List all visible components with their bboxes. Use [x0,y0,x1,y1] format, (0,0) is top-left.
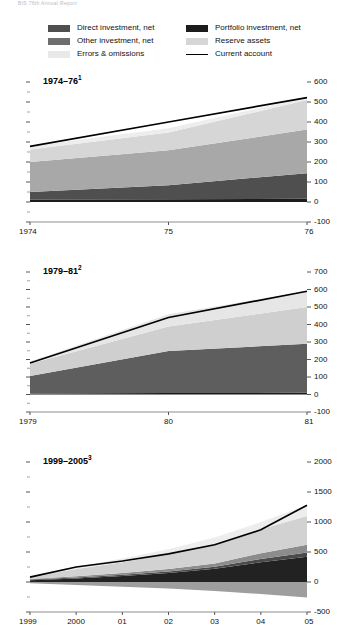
y-axis-tick-label: 500 [314,302,327,311]
y-axis-tick-label: 200 [314,157,327,166]
plot-area [0,250,350,440]
y-axis-tick-label: 500 [314,97,327,106]
legend-label: Direct investment, net [77,24,154,32]
y-axis-tick-label: 400 [314,320,327,329]
legend-label: Portfolio investment, net [215,24,301,32]
y-axis-tick-label: -500 [314,607,330,616]
y-axis-tick-label: 0 [314,390,318,399]
chart-legend: Direct investment, net Other investment,… [0,22,350,58]
legend-column-left: Direct investment, net Other investment,… [48,22,154,61]
legend-swatch-other-investment [48,38,70,45]
legend-item: Other investment, net [48,35,154,47]
y-axis-tick-label: 600 [314,285,327,294]
x-axis-tick-label: 2000 [67,617,85,626]
legend-item: Direct investment, net [48,22,154,34]
y-axis-tick-label: -100 [314,407,330,416]
chart-panel-1999-2005: 1999–20053-50005001000150020001999200001… [0,440,350,641]
y-axis-tick-label: 600 [314,77,327,86]
x-axis-tick-label: 81 [305,417,314,426]
x-axis-tick-label: 75 [164,227,173,236]
legend-label: Other investment, net [77,37,153,45]
x-axis-tick-label: 76 [305,227,314,236]
x-axis-tick-label: 04 [256,617,265,626]
cut-off-header: BIS 76th Annual Report [18,0,77,6]
legend-column-right: Portfolio investment, net Reserve assets… [186,22,301,61]
x-axis-tick-label: 1974 [19,227,37,236]
y-axis-tick-label: 300 [314,337,327,346]
y-axis-tick-label: 200 [314,355,327,364]
x-axis-tick-label: 03 [210,617,219,626]
panel-title-text: 1974–76 [43,76,78,86]
y-axis-tick-label: 0 [314,197,318,206]
legend-label: Errors & omissions [77,50,144,58]
area-below-axis-component [30,582,307,598]
legend-label: Reserve assets [215,37,270,45]
y-axis-tick-label: 700 [314,267,327,276]
legend-swatch-current-account [186,51,208,58]
panel-title-footnote: 1 [78,74,82,81]
y-axis-tick-label: 300 [314,137,327,146]
y-axis-tick-label: 100 [314,372,327,381]
plot-area [0,440,350,641]
chart-panel-1979-81: 1979–812-1000100200300400500600700197980… [0,250,350,440]
panel-title: 1974–761 [43,74,82,86]
panel-title: 1979–812 [43,264,82,276]
y-axis-tick-label: 1500 [314,487,332,496]
y-axis-tick-label: -100 [314,217,330,226]
x-axis-tick-label: 1999 [19,617,37,626]
legend-item: Current account [186,48,301,60]
y-axis-tick-label: 500 [314,547,327,556]
panel-title: 1999–20053 [43,454,92,466]
legend-item: Portfolio investment, net [186,22,301,34]
x-axis-tick-label: 01 [118,617,127,626]
legend-swatch-direct-investment [48,25,70,32]
y-axis-tick-label: 400 [314,117,327,126]
y-axis-tick-label: 2000 [314,457,332,466]
legend-label: Current account [215,50,272,58]
legend-swatch-reserve-assets [186,38,208,45]
legend-item: Errors & omissions [48,48,154,60]
x-axis-tick-label: 05 [305,617,314,626]
panel-title-text: 1979–81 [43,266,78,276]
x-axis-tick-label: 1979 [19,417,37,426]
panel-title-footnote: 2 [78,264,82,271]
x-axis-tick-label: 80 [164,417,173,426]
y-axis-tick-label: 100 [314,177,327,186]
y-axis-tick-label: 0 [314,577,318,586]
legend-swatch-portfolio-investment [186,25,208,32]
y-axis-tick-label: 1000 [314,517,332,526]
panel-title-text: 1999–2005 [43,456,88,466]
legend-item: Reserve assets [186,35,301,47]
chart-panel-1974-76: 1974–761-100010020030040050060019747576 [0,60,350,250]
panel-title-footnote: 3 [88,454,92,461]
legend-swatch-errors-omissions [48,51,70,58]
plot-area [0,60,350,250]
x-axis-tick-label: 02 [164,617,173,626]
